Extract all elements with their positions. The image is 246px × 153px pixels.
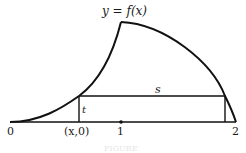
curve-rising <box>10 22 121 122</box>
point-one-dot <box>119 120 123 124</box>
figure-caption: FIGURE <box>104 144 138 153</box>
x-point-label: (x,0) <box>64 125 89 138</box>
two-label: 2 <box>232 125 239 138</box>
function-diagram: y = f(x) s t 0 (x,0) 1 2 FIGURE <box>0 0 246 153</box>
segment-t-label: t <box>82 104 87 115</box>
one-label: 1 <box>117 125 124 138</box>
curve-falling <box>121 22 236 122</box>
origin-label: 0 <box>7 125 14 138</box>
segment-s-label: s <box>155 83 161 96</box>
function-label: y = f(x) <box>101 4 147 18</box>
